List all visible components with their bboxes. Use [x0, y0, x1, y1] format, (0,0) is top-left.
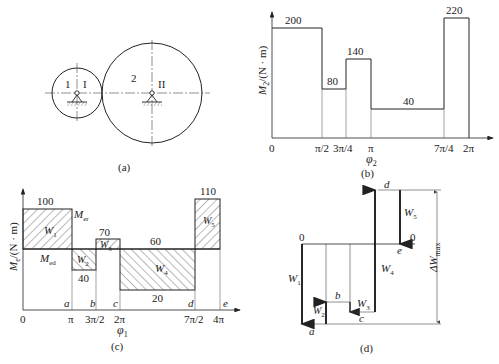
value-label: 100: [37, 195, 54, 207]
moment-step-curve: [272, 18, 469, 138]
value-label: 80: [327, 75, 339, 87]
point-label-d: d: [384, 178, 390, 190]
tick-label: 2π: [463, 142, 475, 154]
origin-label: 0: [269, 142, 275, 154]
value-label: 70: [99, 226, 111, 238]
x-axis-label: φ1: [117, 323, 128, 339]
tick-label: 4π: [213, 313, 225, 325]
figure-a-caption: (a): [118, 161, 131, 174]
mer-label: Mer: [73, 208, 89, 223]
value-label: 20: [152, 292, 164, 304]
vector-label-w2: W2: [313, 305, 325, 319]
point-label: d: [188, 297, 194, 309]
point-label-c: c: [359, 312, 364, 324]
value-label: 220: [446, 4, 463, 16]
figure-c-chart: 100 40 70 60 20 110 Mer Med W1 W2 W3 W4 …: [7, 185, 240, 353]
value-label: 110: [200, 185, 217, 197]
figure-a-gears: 1 I 2 II (a): [45, 40, 210, 174]
tick-label: 3π/2: [85, 313, 105, 325]
diagram-canvas: 1 I 2 II (a) 200 80 140 40 220 0 π/2 3π/…: [0, 0, 499, 364]
gear-2-label: 2: [131, 72, 137, 84]
point-label-e: e: [397, 244, 402, 256]
value-label: 40: [78, 272, 90, 284]
tick-label: π: [68, 313, 74, 325]
zero-label-left: 0: [299, 231, 305, 243]
figure-d-caption: (d): [360, 342, 373, 355]
point-label: e: [223, 297, 228, 309]
y-axis-label: Me/(N · m): [7, 222, 22, 272]
value-label: 200: [285, 14, 302, 26]
x-axis-label: φ2: [366, 152, 377, 168]
point-label-a: a: [309, 325, 315, 337]
value-label: 140: [347, 45, 364, 57]
value-label: 40: [403, 95, 415, 107]
shaft-2-label: II: [158, 78, 166, 90]
y-axis-label: M2/(N · m): [256, 45, 271, 96]
tick-label: 3π/4: [333, 142, 353, 154]
point-label: c: [113, 297, 118, 309]
figure-d-energy-diagram: 0 0 a b c d e W1 W2 W3 W4 W5 ΔWmax (d): [288, 178, 442, 355]
zero-label-right: 0: [410, 231, 416, 243]
vector-label-w1: W1: [288, 272, 301, 287]
med-label: Med: [39, 252, 56, 267]
gear-1-label: 1: [65, 78, 71, 90]
origin-label: 0: [20, 313, 26, 325]
vector-label-w3: W3: [357, 297, 370, 312]
shaft-1-label: I: [83, 78, 87, 90]
figure-c-caption: (c): [111, 340, 124, 353]
value-label: 60: [150, 235, 162, 247]
tick-label: π/2: [315, 142, 329, 154]
point-label: b: [90, 297, 96, 309]
tick-label: 7π/4: [434, 142, 454, 154]
figure-b-chart: 200 80 140 40 220 0 π/2 3π/4 π 7π/4 2π φ…: [256, 4, 493, 180]
delta-w-max-label: ΔWmax: [427, 243, 442, 273]
tick-label: 7π/2: [184, 313, 204, 325]
vector-label-w4: W4: [381, 262, 394, 277]
point-label: a: [64, 297, 70, 309]
point-label-b: b: [335, 289, 341, 301]
figure-b-caption: (b): [361, 167, 374, 180]
vector-label-w5: W5: [404, 206, 417, 221]
